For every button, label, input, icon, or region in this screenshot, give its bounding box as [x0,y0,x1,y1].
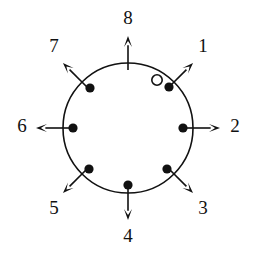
diagram-canvas: 12345678 [0,0,256,257]
radial-direction-diagram: 12345678 [0,0,256,257]
direction-label-3: 3 [198,197,208,218]
arrow-shaft-3 [169,169,186,186]
filled-marker-5 [84,164,93,173]
open-marker-near-1 [152,75,162,85]
direction-label-2: 2 [230,115,240,136]
filled-marker-2 [178,123,187,132]
filled-marker-4 [123,180,132,189]
direction-label-4: 4 [123,225,133,246]
direction-label-5: 5 [49,197,59,218]
arrow-shaft-7 [70,70,87,87]
filled-marker-7 [85,83,94,92]
ring-circle [63,63,193,193]
filled-marker-1 [164,82,173,91]
direction-label-7: 7 [49,35,59,56]
filled-marker-6 [68,123,77,132]
direction-label-8: 8 [123,7,133,28]
arrow-shaft-5 [70,169,87,186]
markers-group [68,75,187,190]
direction-label-1: 1 [198,35,208,56]
direction-label-6: 6 [17,115,27,136]
filled-marker-3 [162,164,171,173]
